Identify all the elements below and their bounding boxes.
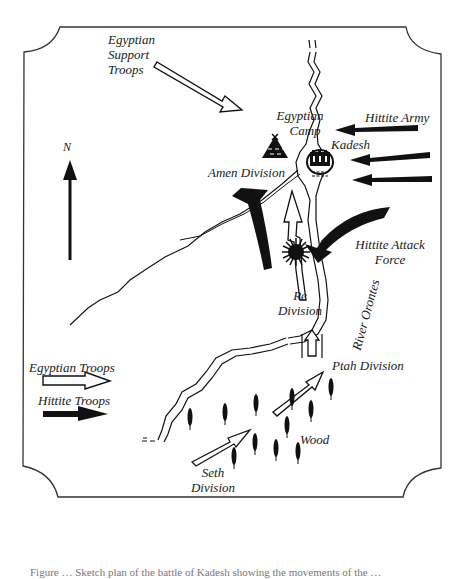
label-kadesh: Kadesh (331, 137, 370, 152)
river-end-dashes (142, 438, 155, 441)
north-arrow-icon (63, 160, 77, 260)
label-re-division: Re Division (270, 288, 330, 318)
label-hittite-attack-force: Hittite Attack Force (340, 237, 440, 267)
clash-starburst-icon (282, 238, 310, 266)
compass-label: N (63, 140, 71, 155)
label-line: Seth (178, 465, 248, 480)
label-egyptian-support-troops: Egyptian Support Troops (108, 32, 155, 77)
label-line: Egyptian (270, 108, 330, 123)
label-hittite-army: Hittite Army (365, 110, 429, 125)
legend-hittite-troops-label: Hittite Troops (38, 393, 110, 408)
label-line: Support (108, 47, 155, 62)
label-line: Re (270, 288, 330, 303)
label-line: Hittite Attack (340, 237, 440, 252)
river-source-dashes (309, 40, 316, 48)
label-seth-division: Seth Division (178, 465, 248, 495)
figure-caption: Figure … Sketch plan of the battle of Ka… (30, 566, 450, 578)
ptah-division-ford-arrow (305, 330, 319, 356)
ptah-division-arrow (273, 372, 323, 416)
legend-hittite-arrow-icon (43, 406, 108, 421)
label-egyptian-camp: Egyptian Camp (270, 108, 330, 138)
label-line: Camp (270, 123, 330, 138)
label-ptah-division: Ptah Division (332, 358, 404, 373)
label-amen-division: Amen Division (208, 165, 285, 180)
label-line: Division (270, 303, 330, 318)
legend-egyptian-troops-label: Egyptian Troops (29, 360, 115, 375)
label-wood: Wood (300, 432, 329, 447)
label-line: Force (340, 252, 440, 267)
egyptian-support-troops-arrow (154, 62, 242, 112)
label-line: Troops (108, 62, 155, 77)
kadesh-fortress-icon (307, 150, 333, 176)
label-line: Division (178, 480, 248, 495)
hittite-army-arrows (335, 124, 432, 186)
label-line: Egyptian (108, 32, 155, 47)
seth-division-arrow (192, 430, 250, 466)
